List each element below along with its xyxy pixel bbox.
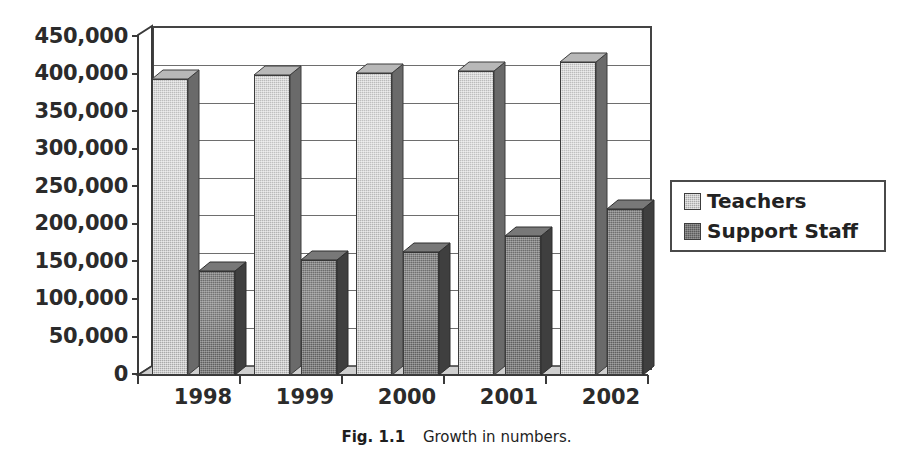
bar-teachers-1999 <box>254 0 290 375</box>
figure-caption-number: Fig. 1.1 <box>341 428 405 446</box>
light-gray-swatch-icon <box>684 193 701 210</box>
dark-gray-swatch-icon <box>684 223 701 240</box>
y-axis-tick-label: 150,000 <box>2 251 128 272</box>
y-axis-tick-label: 50,000 <box>2 326 128 347</box>
legend-item-teachers: Teachers <box>684 191 806 211</box>
bar-support-staff-2001 <box>505 0 541 375</box>
x-axis-tick-label-2001: 2001 <box>458 387 560 408</box>
figure-caption-text: Growth in numbers. <box>423 428 572 446</box>
y-axis-tick-label: 250,000 <box>2 176 128 197</box>
y-axis-tick-label: 450,000 <box>2 26 128 47</box>
y-axis-line <box>137 35 139 375</box>
bar-teachers-2001 <box>458 0 494 375</box>
x-axis-tick-label-2002: 2002 <box>560 387 662 408</box>
bar-support-staff-1998 <box>199 0 235 375</box>
y-axis-tick-label: 400,000 <box>2 63 128 84</box>
x-axis-tick-label-1998: 1998 <box>152 387 254 408</box>
bar-support-staff-1999 <box>301 0 337 375</box>
bar-support-staff-2002 <box>607 0 643 375</box>
y-axis-tick-label: 350,000 <box>2 101 128 122</box>
y-axis-tick-label: 0 <box>2 364 128 385</box>
bar-teachers-1998 <box>152 0 188 375</box>
bar-support-staff-2000 <box>403 0 439 375</box>
y-axis-tick-label: 200,000 <box>2 213 128 234</box>
figure-growth-in-numbers: 450,000 400,000 350,000 300,000 250,000 … <box>0 0 913 464</box>
legend-item-label: Teachers <box>707 191 806 211</box>
figure-caption: Fig. 1.1 Growth in numbers. <box>0 430 913 445</box>
bar-teachers-2002 <box>560 0 596 375</box>
bar-teachers-2000 <box>356 0 392 375</box>
legend-item-label: Support Staff <box>707 221 858 241</box>
legend: Teachers Support Staff <box>670 180 886 252</box>
x-axis-tick-label-2000: 2000 <box>356 387 458 408</box>
y-axis-tick-label: 300,000 <box>2 138 128 159</box>
y-axis-labels: 450,000 400,000 350,000 300,000 250,000 … <box>0 0 128 400</box>
y-axis-tick-label: 100,000 <box>2 288 128 309</box>
x-axis-tick-label-1999: 1999 <box>254 387 356 408</box>
legend-item-support-staff: Support Staff <box>684 221 858 241</box>
